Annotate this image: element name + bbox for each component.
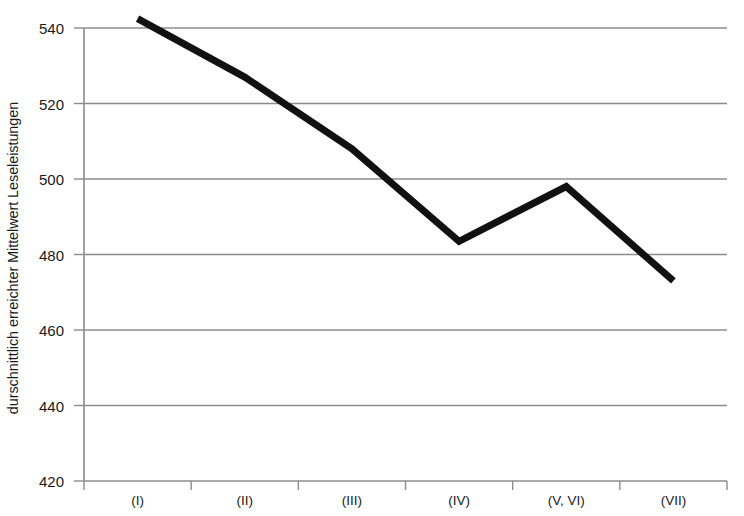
x-axis-ticks — [84, 481, 727, 490]
data-series-line — [138, 19, 674, 281]
chart-container: durschnittlich erreichter Mittelwert Les… — [0, 0, 744, 516]
plot-area — [0, 0, 744, 516]
y-axis-ticks — [74, 28, 84, 481]
gridlines — [84, 28, 727, 481]
